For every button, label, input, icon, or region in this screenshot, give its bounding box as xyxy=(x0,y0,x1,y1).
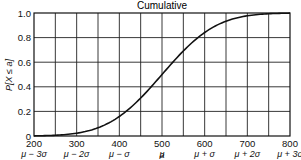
x-tick-sigma-label: μ + 3σ xyxy=(276,149,301,159)
x-tick-label: 300 xyxy=(69,138,85,149)
cumulative-chart: Cumulative 00.20.40.60.81.0 200μ − 3σ300… xyxy=(0,0,301,160)
y-axis-label: P[X ≤ a] xyxy=(4,59,14,91)
x-tick-sigma-label: μ − 2σ xyxy=(63,149,90,159)
x-tick-sigma-label: μ + σ xyxy=(193,149,215,159)
chart-title: Cumulative xyxy=(137,0,187,11)
x-tick-sigma-label: μ + 2σ xyxy=(234,149,261,159)
y-tick-label: 0.6 xyxy=(18,57,31,68)
x-tick-sigma-label: μ − 3σ xyxy=(20,149,47,159)
x-tick-label: 500 xyxy=(154,138,170,149)
x-tick-sigma-label: μ − σ xyxy=(108,149,130,159)
x-tick-label: 400 xyxy=(111,138,127,149)
y-tick-label: 0.8 xyxy=(18,32,31,43)
x-axis-label: a xyxy=(159,150,164,160)
y-tick-label: 0.2 xyxy=(18,106,31,117)
x-tick-label: 200 xyxy=(26,138,42,149)
x-tick-label: 700 xyxy=(239,138,255,149)
x-tick-label: 800 xyxy=(282,138,298,149)
y-tick-label: 0.4 xyxy=(18,81,31,92)
y-axis-ticks: 00.20.40.60.81.0 xyxy=(18,8,31,142)
y-tick-label: 1.0 xyxy=(18,8,31,19)
x-tick-label: 600 xyxy=(197,138,213,149)
